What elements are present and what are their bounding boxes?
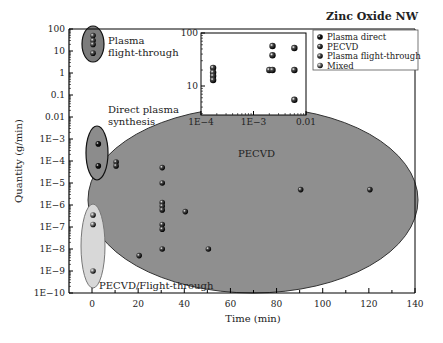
data-point [182, 209, 188, 215]
y-tick-label: 1E−6 [39, 200, 65, 210]
data-point [159, 207, 165, 213]
inset-data-point [291, 45, 297, 51]
region-label-direct-line2: synthesis [108, 116, 155, 127]
legend-label: Plasma direct [327, 32, 387, 42]
region-label-flight-through-line1: Plasma [108, 35, 145, 46]
data-point [206, 246, 212, 252]
data-point [96, 141, 102, 147]
data-point [136, 253, 142, 259]
inset-x-tick-label: 0.01 [296, 117, 316, 127]
zinc-oxide-chart: 1E−101E−91E−81E−71E−61E−51E−41E−30.010.1… [0, 0, 443, 343]
x-tick-label: 60 [225, 299, 237, 309]
region-pecvd [88, 107, 418, 293]
x-axis-label: Time (min) [225, 313, 280, 324]
y-tick-label: 1E−8 [39, 244, 65, 254]
data-point [90, 212, 96, 218]
y-tick-label: 1E−10 [34, 288, 66, 298]
y-tick-label: 1E−7 [39, 222, 65, 232]
x-tick-label: 40 [179, 299, 191, 309]
y-tick-label: 1E−3 [39, 134, 65, 144]
data-point [298, 187, 304, 193]
legend-label: Plasma flight-through [327, 51, 421, 61]
legend-label: PECVD [327, 42, 359, 52]
y-tick-label: 1 [59, 68, 65, 78]
x-tick-label: 80 [271, 299, 283, 309]
inset-data-point [291, 67, 297, 73]
data-point [159, 180, 165, 186]
region-direct-plasma [86, 126, 108, 180]
data-point [90, 33, 96, 39]
inset-y-tick-label: 10 [187, 81, 199, 91]
inset-data-point [269, 67, 275, 73]
data-point [159, 246, 165, 252]
y-tick-label: 1E−9 [39, 266, 65, 276]
legend-label: Mixed [327, 61, 354, 71]
x-tick-label: 0 [89, 299, 95, 309]
y-tick-label: 0.01 [45, 112, 65, 122]
chart-title: Zinc Oxide NW [326, 10, 419, 23]
y-tick-label: 10 [54, 46, 66, 56]
data-point [367, 187, 373, 193]
region-label-direct-line1: Direct plasma [108, 104, 179, 115]
y-tick-label: 1E−5 [39, 178, 65, 188]
x-tick-label: 100 [314, 299, 331, 309]
inset-y-tick-label: 100 [181, 28, 198, 38]
inset-x-tick-label: 1E−3 [241, 117, 267, 127]
legend-marker [317, 63, 323, 69]
y-tick-label: 1E−4 [39, 156, 65, 166]
inset-data-point [210, 77, 216, 83]
data-point [90, 50, 96, 56]
data-point [159, 226, 165, 232]
inset-data-point [269, 52, 275, 58]
legend-marker [317, 34, 323, 40]
legend-marker [317, 53, 323, 59]
x-tick-label: 120 [360, 299, 377, 309]
data-point [159, 165, 165, 171]
y-tick-label: 0.1 [51, 90, 65, 100]
inset-frame [201, 33, 306, 115]
region-label-pecvd: PECVD [238, 148, 275, 159]
y-axis-label: Quantity (g/min) [13, 119, 24, 203]
data-point [113, 163, 119, 169]
inset-data-point [269, 43, 275, 49]
inset-chart: 1E−41E−30.0110100 [181, 28, 316, 127]
data-point [96, 163, 102, 169]
legend: Plasma directPECVDPlasma flight-throughM… [313, 30, 421, 71]
x-tick-label: 20 [132, 299, 144, 309]
inset-data-point [291, 97, 297, 103]
data-point [90, 268, 96, 274]
legend-marker [317, 44, 323, 50]
data-point [90, 222, 96, 228]
data-point [90, 42, 96, 48]
inset-x-tick-label: 1E−4 [188, 117, 214, 127]
y-tick-label: 100 [48, 24, 65, 34]
x-tick-label: 140 [406, 299, 423, 309]
region-label-mixed: PECVD/Flight-through [99, 280, 214, 291]
region-label-flight-through-line2: flight-through [108, 47, 179, 58]
